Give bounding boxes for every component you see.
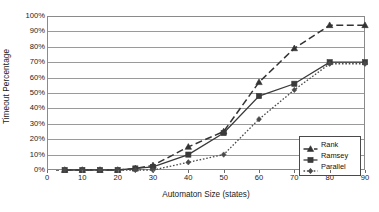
x-tick-label: 10	[67, 173, 97, 182]
x-tick-mark	[153, 170, 154, 173]
legend-label: Rank	[321, 140, 338, 149]
x-tick-mark	[47, 170, 48, 173]
data-point-marker	[186, 152, 191, 157]
legend-label: Parallel	[321, 162, 346, 171]
dot-marker-icon	[303, 162, 318, 172]
y-tick-label: 90%	[15, 27, 45, 35]
x-tick-label: 40	[173, 173, 203, 182]
data-point-marker	[186, 160, 191, 165]
x-tick-mark	[82, 170, 83, 173]
data-point-marker	[291, 45, 297, 51]
y-tick-mark	[56, 170, 59, 171]
legend-item-rank[interactable]: Rank	[303, 139, 358, 150]
y-tick-label: 100%	[15, 12, 45, 20]
legend-item-ramsey[interactable]: Ramsey	[303, 150, 358, 161]
y-tick-label: 60%	[15, 74, 45, 82]
y-tick-label: 80%	[15, 43, 45, 51]
square-marker-icon	[303, 151, 318, 161]
y-tick-label: 10%	[15, 151, 45, 159]
data-point-marker	[292, 81, 297, 86]
x-axis-title: Automaton Size (states)	[47, 190, 365, 199]
x-tick-label: 30	[138, 173, 168, 182]
x-tick-mark	[224, 170, 225, 173]
data-point-marker	[256, 93, 261, 98]
x-tick-mark	[259, 170, 260, 173]
x-tick-label: 20	[103, 173, 133, 182]
legend-label: Ramsey	[321, 151, 348, 160]
y-tick-label: 40%	[15, 104, 45, 112]
y-tick-label: 70%	[15, 58, 45, 66]
x-tick-mark	[330, 170, 331, 173]
triangle-marker-icon	[303, 140, 318, 150]
y-tick-label: 20%	[15, 135, 45, 143]
data-point-marker	[221, 152, 226, 157]
x-tick-mark	[188, 170, 189, 173]
x-tick-label: 0	[32, 173, 62, 182]
y-tick-label: 30%	[15, 120, 45, 128]
y-axis-ticks: 0%10%20%30%40%50%60%70%80%90%100%	[12, 16, 45, 170]
x-tick-mark	[118, 170, 119, 173]
y-tick-label: 50%	[15, 89, 45, 97]
timeout-percentage-chart: Timeout Percentage 0%10%20%30%40%50%60%7…	[0, 0, 379, 212]
data-point-marker	[221, 130, 226, 135]
x-tick-label: 60	[244, 173, 274, 182]
y-axis-title-text: Timeout Percentage	[3, 48, 12, 123]
x-tick-mark	[365, 170, 366, 173]
x-tick-mark	[294, 170, 295, 173]
x-tick-label: 50	[209, 173, 239, 182]
